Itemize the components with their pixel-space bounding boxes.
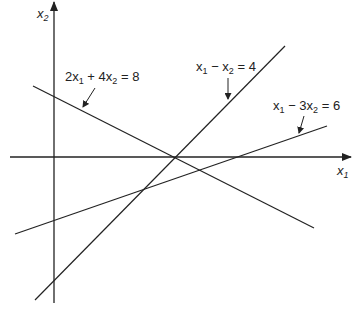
label-line-b: x1 − x2 = 4 [196, 59, 256, 99]
label-line-a: 2x1 + 4x2 = 8 [65, 69, 139, 107]
pointer-arrow-line-c [299, 116, 304, 133]
equation-label-x1-minus-3x2-eq-6: x1 − 3x2 = 6 [273, 98, 340, 115]
x2-axis-label: x2 [36, 6, 49, 23]
equation-label-2x1-plus-4x2-eq-8: 2x1 + 4x2 = 8 [65, 69, 139, 86]
pointer-arrow-line-a [83, 88, 95, 107]
line-x1-minus-3x2-eq-6 [15, 126, 327, 234]
label-line-c: x1 − 3x2 = 6 [273, 98, 340, 133]
equation-label-x1-minus-x2-eq-4: x1 − x2 = 4 [196, 59, 256, 76]
line-x1-minus-x2-eq-4 [35, 46, 285, 300]
x1-axis-label: x1 [336, 163, 349, 180]
diagram-canvas: x1 x2 2x1 + 4x2 = 8 x1 − x2 = 4 x1 − 3x2… [0, 0, 355, 310]
constraint-lines [15, 46, 327, 300]
